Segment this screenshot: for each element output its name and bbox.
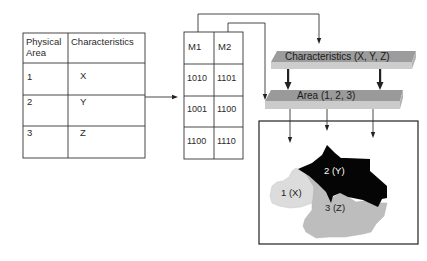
characteristics-plate-label: Characteristics (X, Y, Z) (285, 51, 390, 62)
connector-m1-to-characteristics (198, 14, 321, 44)
attribute-cell-area: 1 (27, 71, 32, 82)
code-cell-m1: 1010 (187, 73, 207, 84)
projection-arrows (290, 109, 373, 138)
code-cell-m1: 1001 (187, 104, 207, 115)
attribute-cell-characteristic: Y (80, 96, 86, 107)
projection-arrowheads (288, 125, 375, 143)
attribute-cell-characteristic: Z (80, 127, 86, 138)
area-plate-label: Area (1, 2, 3) (297, 90, 355, 101)
attribute-header-characteristics: Characteristics (71, 36, 134, 47)
attribute-header-area: Physical Area (26, 36, 61, 58)
attribute-cell-area: 3 (27, 127, 32, 138)
header-area-line2: Area (26, 47, 61, 58)
region-1-label: 1 (X) (281, 187, 302, 198)
connector-m2-to-area (228, 23, 267, 100)
code-header-m2: M2 (218, 41, 231, 52)
attribute-cell-characteristic: X (80, 70, 86, 81)
region-3-label: 3 (Z) (325, 202, 345, 213)
code-cell-m2: 1101 (217, 73, 236, 84)
plate-link-arrows (285, 69, 384, 90)
arrow-to-code-table (145, 95, 178, 99)
region-2-label: 2 (Y) (324, 165, 345, 176)
attribute-cell-area: 2 (27, 96, 32, 107)
code-header-m1: M1 (188, 41, 201, 52)
code-cell-m1: 1100 (187, 136, 206, 147)
code-cell-m2: 1100 (217, 104, 236, 115)
code-cell-m2: 1110 (217, 136, 236, 147)
header-area-line1: Physical (26, 36, 61, 47)
diagram-canvas (0, 0, 427, 261)
